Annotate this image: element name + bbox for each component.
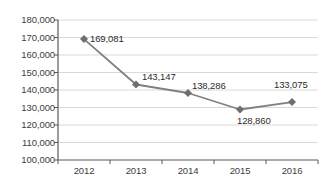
y-tick-label: 120,000 [3,119,55,130]
data-value-label: 133,075 [274,79,308,90]
x-tick-label: 2014 [165,165,211,176]
x-tick-label: 2012 [61,165,107,176]
data-point-marker [288,98,296,106]
x-tick-label: 2016 [269,165,315,176]
y-tick-label: 160,000 [3,49,55,60]
data-value-label: 138,286 [192,80,226,91]
series-markers [80,35,296,113]
x-tick-label: 2015 [217,165,263,176]
y-tick-label: 170,000 [3,32,55,43]
y-tick-label: 100,000 [3,154,55,165]
y-tick-label: 130,000 [3,102,55,113]
y-tick-label: 180,000 [3,14,55,25]
series-line [84,39,292,109]
x-tick-label: 2013 [113,165,159,176]
data-point-marker [236,106,244,114]
y-tick-label: 140,000 [3,84,55,95]
line-chart: 180,000 170,000 160,000 150,000 140,000 … [0,0,328,188]
data-value-label: 143,147 [142,71,176,82]
data-value-label: 169,081 [90,33,124,44]
x-axis [58,160,318,164]
y-tick-label: 150,000 [3,67,55,78]
y-tick-label: 110,000 [3,137,55,148]
data-value-label: 128,860 [237,115,271,126]
